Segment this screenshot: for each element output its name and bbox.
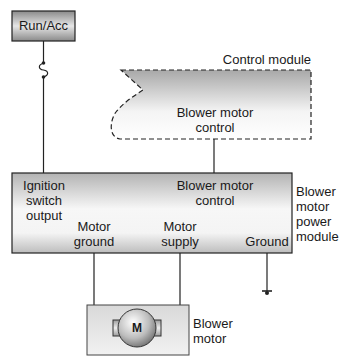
- control-module-title: Control module: [219, 52, 311, 67]
- motor-ground-label: Motor ground: [66, 219, 122, 249]
- motor-supply-label: Motor supply: [152, 219, 208, 249]
- blower-motor-name-label: Blower motor: [193, 316, 233, 346]
- run-acc-label: Run/Acc: [12, 18, 75, 33]
- ignition-switch-output-label: Ignition switch output: [14, 178, 74, 223]
- control-module-output-label: Blower motor control: [150, 105, 280, 135]
- blower-motor-control-terminal-label: Blower motor control: [150, 178, 280, 208]
- motor-symbol-label: M: [127, 321, 147, 336]
- ground-terminal-label: Ground: [244, 234, 290, 249]
- fuse-icon: [39, 61, 47, 79]
- power-module-name-label: Blower motor power module: [296, 184, 339, 244]
- ground-icon: [262, 291, 272, 295]
